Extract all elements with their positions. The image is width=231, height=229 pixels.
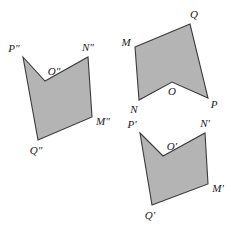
- vertex-label-q-prime: Q': [145, 209, 156, 221]
- vertex-label-m: M: [120, 36, 131, 48]
- vertex-label-o: O: [168, 85, 176, 97]
- shape-group-plain: M Q P O N: [120, 8, 217, 115]
- vertex-label-n: N: [129, 103, 138, 115]
- vertex-label-p: P: [210, 98, 218, 110]
- vertex-label-p-prime: P': [126, 118, 137, 130]
- vertex-label-o-double-prime: O": [48, 65, 61, 77]
- vertex-label-q-double-prime: Q": [30, 144, 43, 156]
- vertex-label-p-double-prime: P": [7, 42, 20, 54]
- geometry-figure-canvas: P" O" N" M" Q" M Q P O N P' O' N' M' Q': [0, 0, 231, 229]
- geometry-diagram: P" O" N" M" Q" M Q P O N P' O' N' M' Q': [0, 0, 231, 229]
- vertex-label-m-prime: M': [211, 182, 224, 194]
- vertex-label-q: Q: [190, 8, 198, 20]
- vertex-label-n-double-prime: N": [81, 41, 94, 53]
- vertex-label-n-prime: N': [199, 117, 210, 129]
- vertex-label-o-prime: O': [167, 140, 178, 152]
- shape-group-double-prime: P" O" N" M" Q": [7, 41, 110, 156]
- shape-group-prime: P' O' N' M' Q': [126, 117, 224, 221]
- vertex-label-m-double-prime: M": [95, 115, 110, 127]
